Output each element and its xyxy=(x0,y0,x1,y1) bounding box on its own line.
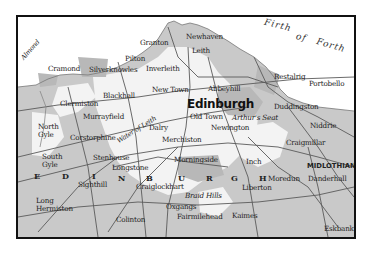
place-colinton: Colinton xyxy=(116,216,145,223)
place-abbeyhill: Abbeyhill xyxy=(208,85,240,92)
city-letter-e: E xyxy=(34,172,40,180)
place-duddingston: Duddingston xyxy=(274,103,318,110)
place-new-town: New Town xyxy=(152,86,189,93)
place-granton: Granton xyxy=(140,39,169,46)
city-letter-r: R xyxy=(206,174,212,182)
place-longstone: Longstone xyxy=(112,164,148,171)
place-craiglockhart: Craiglockhart xyxy=(136,183,184,190)
place-pilton: Pilton xyxy=(125,55,145,62)
place-kaimes: Kaimes xyxy=(232,212,258,219)
city-label-edinburgh: Edinburgh xyxy=(187,98,254,110)
place-oxgangs: Oxgangs xyxy=(166,203,196,210)
place-long-hermiston: Long Hermiston xyxy=(36,197,73,212)
city-letter-g: G xyxy=(231,174,238,182)
place-south-gyle: South Gyle xyxy=(42,153,62,168)
place-sighthill: Sighthill xyxy=(78,181,107,188)
place-liberton: Liberton xyxy=(242,184,272,191)
city-letter-u: U xyxy=(178,174,185,182)
place-morningside: Morningside xyxy=(174,156,218,163)
place-stenhouse: Stenhouse xyxy=(93,154,129,161)
place-leith: Leith xyxy=(192,47,210,54)
place-merchiston: Merchiston xyxy=(162,136,202,143)
region-label-midlothian: MIDLOTHIAN xyxy=(307,163,356,170)
city-letter-b: B xyxy=(146,174,153,182)
place-clermiston: Clermiston xyxy=(60,100,98,107)
map-frame: Firth of Forth Granton Newhaven Leith Al… xyxy=(16,15,356,239)
city-letter-d: D xyxy=(62,172,69,180)
place-fairmilehead: Fairmilehead xyxy=(177,213,223,220)
place-north-gyle: North Gyle xyxy=(38,123,59,138)
place-silverknowles: Silverknowles xyxy=(89,66,137,73)
place-restalrig: Restalrig xyxy=(274,73,305,80)
place-old-town: Old Town xyxy=(190,113,223,120)
place-murrayfield: Murrayfield xyxy=(83,113,124,120)
place-dalry: Dalry xyxy=(149,124,168,131)
place-cramond: Cramond xyxy=(48,65,80,72)
place-arthurs-seat: Arthur's Seat xyxy=(232,114,278,121)
city-letter-n: N xyxy=(118,174,125,182)
city-letter-h: H xyxy=(259,174,266,182)
place-newington: Newington xyxy=(211,124,249,131)
place-newhaven: Newhaven xyxy=(186,33,223,40)
place-moredun: Moredun xyxy=(268,175,300,182)
place-niddrie: Niddrie xyxy=(310,122,336,129)
place-eskbank: Eskbank xyxy=(324,225,354,232)
place-danderhall: Danderhall xyxy=(308,175,346,182)
place-blackhall: Blackhall xyxy=(103,92,135,99)
city-letter-i: I xyxy=(92,172,96,180)
place-inch: Inch xyxy=(246,158,261,165)
place-portobello: Portobello xyxy=(309,80,344,87)
place-craigmillar: Craigmillar xyxy=(286,139,325,146)
place-braid-hills: Braid Hills xyxy=(185,192,222,199)
place-corstorphine: Corstorphine xyxy=(70,134,116,141)
place-inverleith: Inverleith xyxy=(146,65,180,72)
